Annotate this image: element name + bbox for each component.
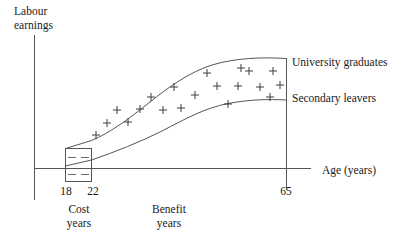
curve-label-university-graduates: University graduates [292,56,388,70]
earnings-profile-figure: Labour earnings Age (years) University g… [0,0,407,244]
curve-label-secondary-leavers: Secondary leavers [292,92,376,106]
cost-years-line2: years [67,217,91,229]
x-tick-label-18: 18 [56,185,76,199]
secondary-leavers-curve [66,100,287,166]
x-axis-title: Age (years) [322,164,376,178]
x-tick-label-22: 22 [83,185,103,199]
y-axis-title-line2: earnings [14,19,53,31]
y-axis-title: Labour earnings [14,5,53,32]
benefit-years-label: Benefit years [139,203,199,230]
cost-years-label: Cost years [49,203,109,230]
y-axis-title-line1: Labour [14,5,47,17]
cost-box-hatching [68,158,89,175]
x-tick-label-65: 65 [276,185,296,199]
benefit-years-line2: years [157,217,181,229]
cost-years-line1: Cost [68,203,89,215]
benefit-years-line1: Benefit [152,203,186,215]
